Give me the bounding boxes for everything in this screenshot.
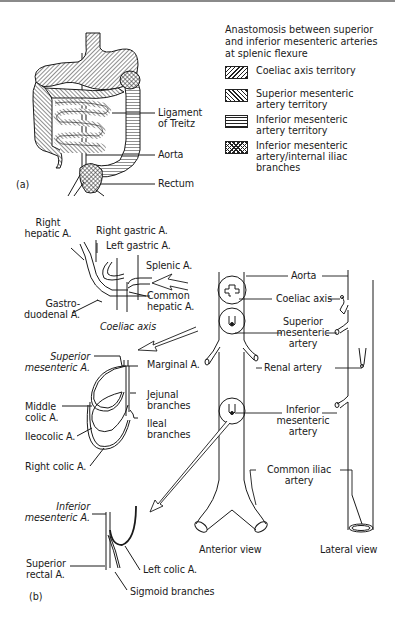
label-renal-artery: Renal artery [264, 362, 322, 373]
label-aorta-b: Aorta [291, 270, 316, 281]
coeliac-pointer-arrow [152, 274, 188, 290]
diagonal-hatch-swatch-icon [225, 66, 248, 79]
label-splenic: Splenic A. [146, 260, 192, 271]
legend-title: Anastomosis between superior and inferio… [225, 24, 377, 60]
label-superior-rectal: Superiorrectal A. [26, 558, 66, 580]
legend-item-coeliac: Coeliac axis territory [225, 65, 356, 79]
label-sigmoid-branches: Sigmoid branches [130, 586, 215, 597]
label-right-hepatic: Righthepatic A. [22, 217, 74, 239]
legend-label: Superior mesentericartery territory [256, 88, 353, 110]
label-inferior-mesenteric-a: Inferiormesenteric A. [20, 501, 90, 523]
legend-label: Coeliac axis territory [256, 65, 356, 76]
label-rectum: Rectum [158, 178, 194, 189]
label-right-colic: Right colic A. [25, 461, 86, 472]
label-common-iliac-artery: Common iliacartery [258, 464, 340, 486]
legend-title-line: and inferior mesenteric arteries [225, 36, 377, 48]
label-common-hepatic: Commonhepatic A. [147, 290, 194, 312]
caption-coeliac-axis: Coeliac axis [100, 321, 156, 332]
legend-item-sma: Superior mesentericartery territory [225, 88, 353, 110]
label-middle-colic: Middlecolic A. [25, 401, 58, 423]
label-coeliac-axis: Coeliac axis [276, 293, 332, 304]
caption-anterior-view: Anterior view [199, 544, 262, 555]
label-superior-mesenteric-a: Superiormesenteric A. [20, 351, 90, 373]
label-marginal-a: Marginal A. [147, 359, 200, 370]
legend-label: Inferior mesentericartery territory [256, 114, 347, 136]
panel-a-label: (a) [16, 179, 29, 190]
legend-title-line: at splenic flexure [225, 48, 377, 60]
label-inferior-mesenteric-artery: Inferiormesentericartery [276, 404, 330, 437]
legend-item-ima: Inferior mesentericartery territory [225, 114, 347, 136]
horizontal-lines-swatch-icon [225, 115, 248, 128]
label-jejunal-branches: Jejunalbranches [147, 389, 190, 411]
gut-territories-diagram [33, 33, 155, 196]
label-left-gastric: Left gastric A. [106, 240, 171, 251]
reverse-diagonal-hatch-swatch-icon [225, 89, 248, 102]
legend-item-iliac: Inferior mesentericartery/internal iliac… [225, 140, 347, 173]
label-right-gastric: Right gastric A. [96, 225, 168, 236]
caption-lateral-view: Lateral view [320, 544, 377, 555]
aorta-lateral-view [335, 270, 373, 532]
cross-hatch-swatch-icon [225, 141, 248, 154]
legend-label: Inferior mesentericartery/internal iliac… [256, 140, 347, 173]
aorta-anterior-view [193, 272, 269, 534]
label-ligament-of-treitz: Ligamentof Treitz [158, 107, 202, 129]
panel-b-label: (b) [29, 591, 42, 602]
label-ileocolic: Ileocolic A. [25, 431, 75, 442]
label-ileal-branches: Ilealbranches [147, 418, 190, 440]
label-aorta-a: Aorta [158, 149, 183, 160]
label-left-colic: Left colic A. [143, 564, 197, 575]
label-superior-mesenteric-artery: Superiormesentericartery [276, 316, 330, 349]
legend-title-line: Anastomosis between superior [225, 24, 377, 36]
label-gastroduodenal: Gastro-duodenal A. [20, 298, 80, 320]
